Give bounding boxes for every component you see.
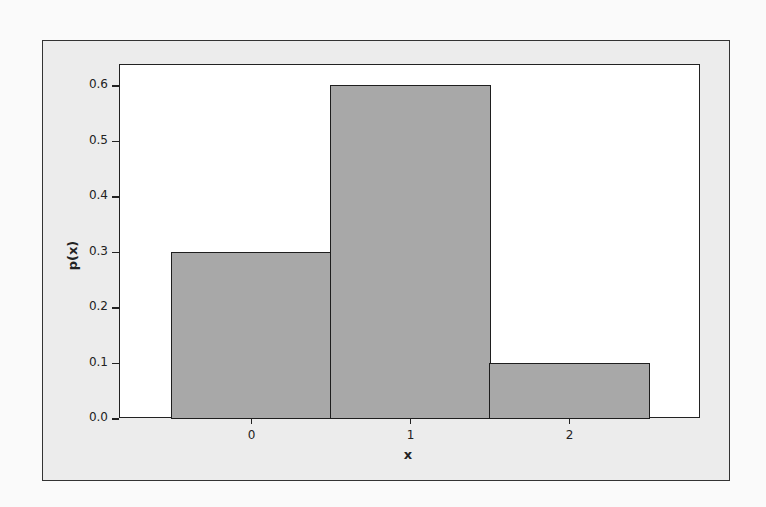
y-tick-mark (112, 141, 119, 143)
x-tick-label: 2 (560, 428, 580, 442)
y-tick-mark (112, 307, 119, 309)
bar-2 (489, 363, 650, 420)
x-tick-mark (251, 418, 253, 424)
x-axis-title: x (398, 447, 418, 462)
x-tick-label: 0 (242, 428, 262, 442)
x-tick-mark (410, 418, 412, 424)
y-tick-label: 0.2 (56, 299, 108, 313)
x-tick-mark (569, 418, 571, 424)
y-tick-mark (112, 85, 119, 87)
x-tick-label: 1 (401, 428, 421, 442)
y-tick-label: 0.0 (56, 410, 108, 424)
y-tick-label: 0.1 (56, 355, 108, 369)
bar-1 (330, 85, 491, 419)
y-axis-title: p(x) (65, 236, 80, 276)
y-tick-mark (112, 418, 119, 420)
bar-0 (171, 252, 332, 420)
y-tick-mark (112, 196, 119, 198)
y-tick-label: 0.6 (56, 77, 108, 91)
y-tick-label: 0.4 (56, 188, 108, 202)
y-tick-mark (112, 363, 119, 365)
y-tick-label: 0.5 (56, 133, 108, 147)
y-tick-mark (112, 252, 119, 254)
